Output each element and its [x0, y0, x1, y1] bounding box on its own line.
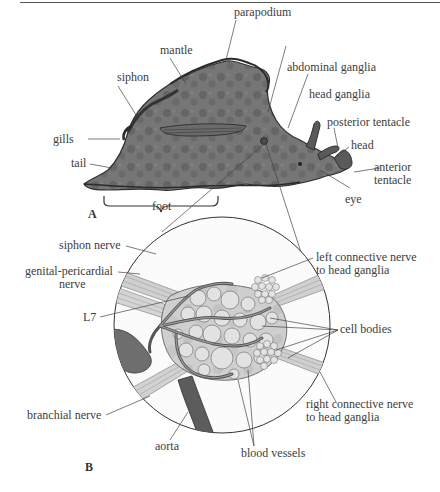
label-cell-bodies: cell bodies	[340, 323, 392, 336]
label-blood-vessels: blood vessels	[241, 447, 305, 460]
ganglion-magnified	[106, 217, 334, 440]
label-aorta: aorta	[155, 440, 179, 453]
label-right-connective-line2: to head ganglia	[306, 411, 379, 424]
label-genital-pericardial-line2: nerve	[59, 278, 86, 291]
label-parapodium: parapodium	[234, 6, 291, 19]
label-siphon-nerve: siphon nerve	[59, 239, 121, 252]
label-eye: eye	[345, 193, 362, 206]
label-foot: foot	[152, 200, 171, 213]
label-anterior-tentacle-line2: tentacle	[374, 174, 411, 187]
label-posterior-tentacle: posterior tentacle	[327, 116, 410, 129]
label-mantle: mantle	[160, 44, 193, 57]
label-left-connective-line2: to head ganglia	[316, 264, 389, 277]
label-branchial-nerve: branchial nerve	[27, 409, 101, 422]
label-siphon: siphon	[117, 71, 149, 84]
label-head-ganglia: head ganglia	[309, 88, 370, 101]
panel-b-letter: B	[85, 460, 93, 475]
label-l7: L7	[83, 311, 96, 324]
label-gills: gills	[53, 133, 74, 146]
label-head: head	[351, 139, 374, 152]
label-abdominal-ganglia: abdominal ganglia	[287, 61, 376, 74]
panel-a-letter: A	[88, 207, 97, 222]
label-tail: tail	[71, 157, 86, 170]
